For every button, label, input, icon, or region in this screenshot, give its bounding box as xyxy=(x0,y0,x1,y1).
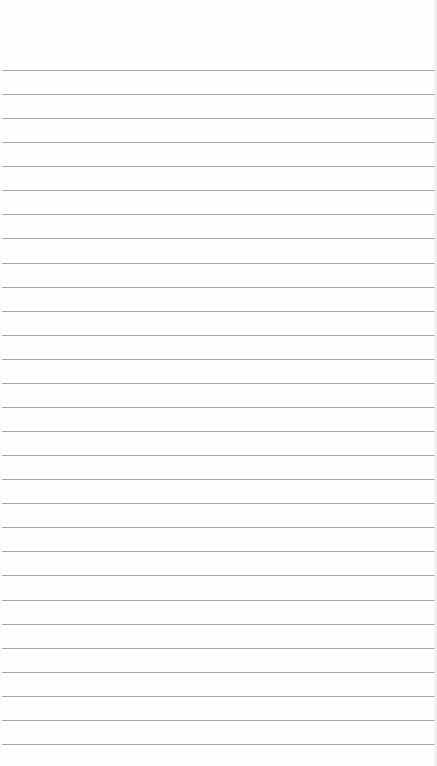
ruled-line xyxy=(2,551,435,552)
ruled-line xyxy=(2,238,435,239)
ruled-line xyxy=(2,744,435,745)
ruled-line xyxy=(2,624,435,625)
ruled-line xyxy=(2,672,435,673)
ruled-line xyxy=(2,70,435,71)
ruled-line xyxy=(2,311,435,312)
ruled-line xyxy=(2,575,435,576)
ruled-line xyxy=(2,118,435,119)
ruled-line xyxy=(2,359,435,360)
ruled-line xyxy=(2,94,435,95)
ruled-line xyxy=(2,455,435,456)
ruled-line xyxy=(2,696,435,697)
ruled-line xyxy=(2,287,435,288)
paper-edge-shadow xyxy=(433,0,437,766)
ruled-line xyxy=(2,335,435,336)
ruled-line xyxy=(2,166,435,167)
ruled-line xyxy=(2,600,435,601)
ruled-line xyxy=(2,503,435,504)
ruled-line xyxy=(2,648,435,649)
ruled-line xyxy=(2,431,435,432)
ruled-line xyxy=(2,527,435,528)
ruled-line xyxy=(2,263,435,264)
ruled-line xyxy=(2,383,435,384)
ruled-line xyxy=(2,190,435,191)
ruled-line xyxy=(2,720,435,721)
ruled-line xyxy=(2,214,435,215)
lined-paper-sheet xyxy=(0,0,437,766)
ruled-line xyxy=(2,142,435,143)
ruled-line xyxy=(2,479,435,480)
ruled-line xyxy=(2,407,435,408)
